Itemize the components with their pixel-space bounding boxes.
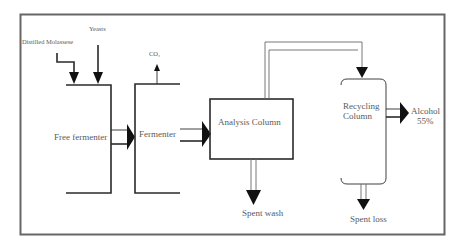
alcohol-label-line1: Alcohol (411, 106, 440, 116)
free-fermenter-label: Free fermenter (54, 132, 107, 142)
yeasts-label: Yeasts (89, 25, 106, 32)
process-flow-diagram: Distilled Molassese Yeasts Free fermente… (0, 0, 461, 245)
recycling-column-label-line1: Recycling (343, 101, 380, 111)
spent-wash-label: Spent wash (242, 208, 284, 218)
co2-label: CO₂ (149, 50, 160, 57)
analysis-column-label: Analysis Column (218, 117, 281, 127)
alcohol-label-line2: 55% (417, 116, 434, 126)
recycling-column-label-line2: Column (343, 111, 373, 121)
spent-loss-label: Spent loss (350, 214, 387, 224)
distilled-molasses-label: Distilled Molassese (22, 38, 73, 45)
fermenter-label: Fermenter (139, 129, 176, 139)
